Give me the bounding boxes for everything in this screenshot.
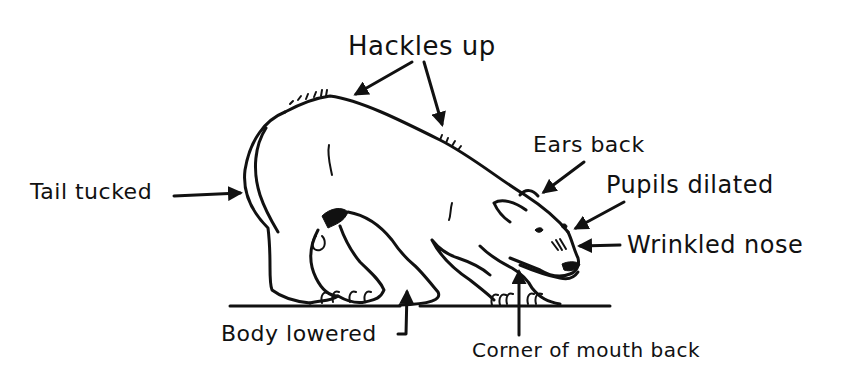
label-ears-back: Ears back bbox=[533, 134, 645, 156]
dog-body-language-diagram: Hackles up Ears back Pupils dilated Wrin… bbox=[0, 0, 841, 380]
arrow-nose bbox=[580, 245, 620, 246]
label-pupils-dilated: Pupils dilated bbox=[606, 173, 774, 197]
arrow-pupils bbox=[576, 202, 624, 228]
arrow-hackles-right bbox=[424, 62, 442, 124]
label-body-lowered: Body lowered bbox=[221, 323, 377, 345]
label-tail-tucked: Tail tucked bbox=[30, 181, 152, 203]
arrow-ears bbox=[544, 162, 584, 192]
arrow-tail bbox=[174, 193, 240, 196]
label-hackles-up: Hackles up bbox=[348, 33, 496, 59]
arrow-hackles-left bbox=[356, 62, 412, 94]
label-wrinkled-nose: Wrinkled nose bbox=[627, 233, 803, 257]
label-corner-of-mouth-back: Corner of mouth back bbox=[472, 340, 700, 360]
arrow-body bbox=[398, 292, 407, 334]
